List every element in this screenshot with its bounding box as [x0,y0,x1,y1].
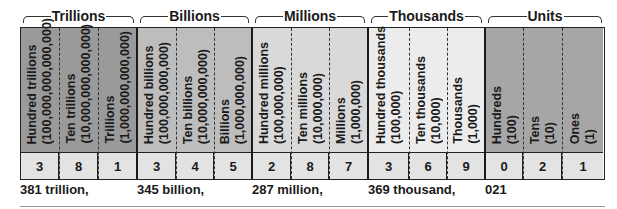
number-readout: 381 trillion, 345 billion, 287 million, … [20,182,605,198]
column-millions: Millions(1,000,000) 7 [330,28,369,179]
column-hundred-thousands: Hundred thousands(100,000) 3 [369,28,410,179]
group-header-thousands: Thousands [368,6,485,28]
place-name: Hundred billions [142,45,156,144]
place-value: (1,000,000,000) [233,56,247,144]
digit-cell: 1 [99,152,136,179]
digit-cell: 8 [60,152,98,179]
place-name: Ten trillions [64,74,78,144]
place-name: Hundred millions [257,42,271,144]
digit-cell: 0 [486,152,523,179]
column-ten-millions: Ten millions(10,000,000) 8 [292,28,330,179]
place-value: (10,000,000,000,000) [79,24,93,144]
place-name: Thousands [451,77,465,144]
column-tens: Tens(10) 2 [524,28,563,179]
digit-cell: 3 [21,152,59,179]
column-billions: Billions(1,000,000,000) 5 [215,28,253,179]
place-name: Ones [568,113,582,144]
digit-cell: 6 [410,152,447,179]
place-value: (100,000,000,000) [157,42,171,144]
place-name: Billions [218,99,232,144]
group-label: Units [527,8,564,24]
group-header-billions: Billions [137,6,252,28]
place-value: (100,000) [389,90,403,144]
column-ten-thousands: Ten thousands(10,000) 6 [410,28,448,179]
digit-cell: 8 [292,152,329,179]
place-name: Trillions [103,96,117,144]
group-label: Trillions [51,8,107,24]
group-headers: Trillions Billions Millions Thousands Un… [20,6,605,28]
digit-cell: 3 [369,152,409,179]
column-ones: Ones(1) 1 [563,28,603,179]
place-value: (100,000,000,000,000) [40,18,54,145]
column-trillions: Trillions(1,000,000,000,000) 1 [99,28,138,179]
place-name: Ten billions [181,75,195,144]
readout-units: 021 [485,182,507,197]
digit-cell: 9 [448,152,484,179]
place-name: Hundreds [490,86,504,144]
digit-cell: 7 [330,152,367,179]
column-hundred-millions: Hundred millions(100,000,000) 2 [253,28,292,179]
group-label: Millions [283,8,337,24]
place-value: (10,000) [429,97,443,144]
place-value: (100,000,000) [272,66,286,144]
column-thousands: Thousands(1,000) 9 [448,28,486,179]
group-header-units: Units [485,6,605,28]
column-hundreds: Hundreds(100) 0 [486,28,524,179]
digit-cell: 5 [215,152,251,179]
place-name: Hundred trillions [25,44,39,144]
place-value: (10,000,000) [311,73,325,144]
place-value: (1,000,000,000,000) [118,31,132,144]
place-value: (1,000) [466,104,480,144]
readout-millions: 287 million, [252,182,323,197]
place-name: Ten thousands [414,56,428,144]
place-name: Tens [528,116,542,144]
group-header-millions: Millions [252,6,368,28]
readout-thousands: 369 thousand, [368,182,455,197]
column-hundred-trillions: Hundred trillions(100,000,000,000,000) 3 [21,28,60,179]
place-value: (100) [505,115,519,144]
place-value: (10) [543,122,557,144]
place-value: (1) [583,129,597,144]
place-value: (10,000,000,000) [196,49,210,144]
readout-trillions: 381 trillion, [20,182,89,197]
digit-cell: 2 [253,152,291,179]
column-ten-billions: Ten billions(10,000,000,000) 4 [177,28,215,179]
place-name: Ten millions [296,72,310,144]
place-value: (1,000,000) [349,80,363,144]
column-hundred-billions: Hundred billions(100,000,000,000) 3 [138,28,177,179]
digit-cell: 3 [138,152,176,179]
digit-cell: 1 [563,152,603,179]
place-name: Hundred thousands [374,26,388,144]
column-ten-trillions: Ten trillions(10,000,000,000,000) 8 [60,28,99,179]
group-label: Billions [168,8,221,24]
readout-billions: 345 billion, [137,182,204,197]
group-label: Thousands [388,8,465,24]
place-value-table: Hundred trillions(100,000,000,000,000) 3… [20,27,605,180]
place-name: Millions [334,97,348,144]
bottom-rule [20,206,605,207]
digit-cell: 4 [177,152,214,179]
digit-cell: 2 [524,152,562,179]
